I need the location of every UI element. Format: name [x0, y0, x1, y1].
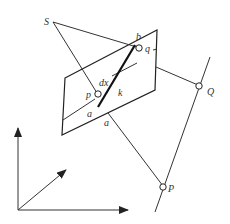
point-b: [136, 45, 142, 51]
ray-s-to-q: [53, 22, 140, 48]
point-Q: [196, 83, 202, 89]
projection-diagram: S b q dx p k a a Q P: [0, 0, 230, 224]
point-P: [160, 184, 166, 190]
line-through-q: [112, 63, 137, 76]
label-dx: dx: [99, 77, 109, 88]
point-p: [95, 91, 101, 97]
label-S: S: [44, 16, 49, 27]
label-a-outer: a: [104, 117, 109, 128]
label-b: b: [136, 31, 141, 42]
label-P: P: [167, 183, 174, 194]
ray-a-to-P: [108, 113, 163, 186]
label-q: q: [145, 43, 150, 54]
image-plane: [62, 30, 157, 135]
line-k: [98, 45, 135, 107]
label-a-inner: a: [87, 108, 92, 119]
label-p: p: [85, 89, 91, 100]
axis-diagonal-arrow: [18, 170, 66, 210]
ray-s-to-p: [53, 22, 97, 93]
label-k: k: [118, 87, 123, 98]
label-Q: Q: [207, 86, 215, 97]
ray-q-to-Q: [156, 67, 198, 85]
